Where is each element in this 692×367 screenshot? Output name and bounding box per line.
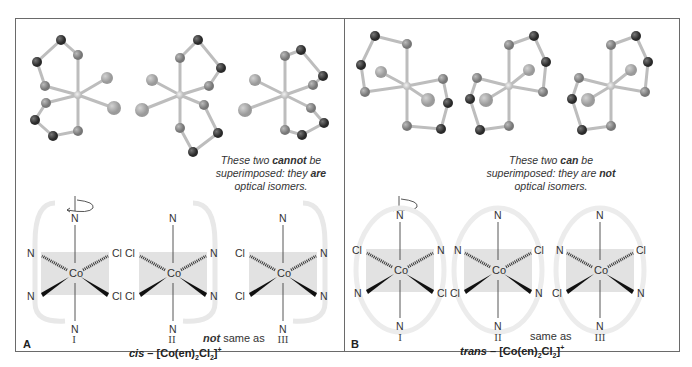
relation-same-as: same as [530,330,572,342]
trans-annotation: These two can be superimposed: they are … [478,154,624,193]
numeral-ii: II [168,333,175,345]
svg-text:N: N [320,290,328,302]
cis-annotation: These two cannot be superimposed: they a… [203,154,339,193]
svg-text:N: N [556,244,564,256]
panel-a-cis: Co N N Cl N Cl N Co N Cl N Cl N N [15,18,344,352]
svg-text:Cl: Cl [552,287,562,299]
panel-b-trans: Co N Cl N N Cl N Co N N Cl Cl N N [345,18,680,352]
panel-letter-b: B [351,338,359,350]
svg-text:N: N [596,209,604,221]
svg-text:Cl: Cl [235,290,245,302]
cis-formula: cis – [Co(en)2Cl2]+ [129,346,222,361]
numeral-i: I [398,331,402,343]
svg-text:N: N [279,212,287,224]
numeral-iii: III [278,333,289,345]
svg-text:N: N [320,247,328,259]
svg-text:Cl: Cl [235,247,245,259]
relation-not-same-as: not same as [203,332,265,344]
numeral-ii: II [494,331,501,343]
svg-text:Co: Co [277,267,291,279]
trans-formula: trans – [Co(en)2Cl2]+ [460,344,564,359]
panel-letter-a: A [23,338,31,350]
svg-text:Co: Co [594,264,608,276]
svg-text:N: N [637,287,645,299]
svg-text:Cl: Cl [636,244,646,256]
numeral-iii: III [595,331,606,343]
numeral-i: I [72,333,76,345]
